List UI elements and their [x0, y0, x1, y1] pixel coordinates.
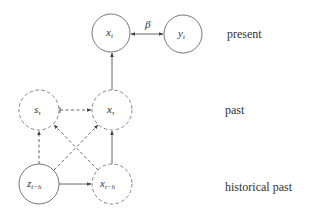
- node-x-tau: xτ: [92, 90, 132, 130]
- node-s-tau: sτ: [19, 90, 59, 130]
- node-x-t: xt: [92, 14, 130, 52]
- node-x-t-h: xt−h: [92, 164, 132, 204]
- edge-xth-stau: [54, 125, 98, 170]
- row-label-historical-past: historical past: [225, 180, 293, 194]
- causal-diagram: β xt yt sτ xτ zt−h xt−h present past his…: [0, 0, 312, 215]
- node-y-t: yt: [164, 15, 202, 53]
- node-z-t-h: zt−h: [19, 164, 59, 204]
- edge-zth-xtau: [54, 125, 98, 170]
- row-label-present: present: [227, 27, 262, 41]
- row-label-past: past: [225, 103, 245, 117]
- edge-label-beta: β: [144, 18, 151, 30]
